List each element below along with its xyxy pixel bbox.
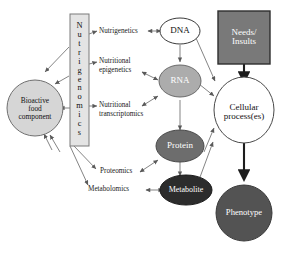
node-dna-shape[interactable] bbox=[160, 18, 200, 44]
edge-nutrigenomics-bioactive-b bbox=[55, 76, 69, 84]
node-phenotype-shape[interactable] bbox=[216, 185, 272, 241]
node-nutrigenomics-label: N u t r i g e n o m i c s bbox=[70, 14, 89, 146]
edge-label-proteomics: Proteomics bbox=[100, 167, 132, 175]
edge-label-nutritional-epigenetics-line2: epigenetics bbox=[99, 66, 131, 74]
nutrigenomics-diagram: N u t r i g e n o m i c s Bioactive food… bbox=[0, 0, 287, 255]
edge-rna-cellular bbox=[199, 84, 214, 96]
edge-protein-cellular bbox=[204, 128, 214, 152]
edge-nutrigenomics-nutrigenetics bbox=[89, 31, 97, 34]
edge-label-metabolomics: Metabolomics bbox=[88, 185, 129, 193]
edge-nutrigenomics-epigenetics bbox=[89, 62, 97, 64]
node-cellular-process-shape[interactable] bbox=[214, 77, 274, 143]
nutrigenomics-letter: s bbox=[78, 129, 81, 138]
edge-nutrigenomics-proteomics bbox=[74, 146, 96, 169]
edge-proteomics-protein bbox=[140, 160, 158, 172]
edges-layer bbox=[0, 0, 287, 255]
nodes-layer bbox=[7, 11, 274, 241]
edge-nutrigenomics-bioactive-a bbox=[45, 47, 69, 72]
node-rna-shape[interactable] bbox=[159, 65, 201, 97]
edge-label-nutritional-transcriptomics-line2: transcriptomics bbox=[99, 110, 143, 118]
edge-transcriptomics-rna bbox=[142, 96, 158, 106]
node-bioactive-shape[interactable] bbox=[7, 80, 63, 136]
edge-epigenetics-rna bbox=[142, 72, 158, 80]
edge-nutrigenomics-metabolomics bbox=[70, 146, 88, 185]
node-needs-insults-shape[interactable] bbox=[218, 11, 270, 64]
edge-label-nutritional-epigenetics-line1: Nutritional bbox=[99, 57, 131, 65]
edge-label-nutritional-transcriptomics-line1: Nutritional bbox=[99, 101, 131, 109]
node-protein-shape[interactable] bbox=[156, 130, 204, 162]
edge-label-nutrigenetics: Nutrigenetics bbox=[99, 27, 138, 35]
node-metabolite-shape[interactable] bbox=[160, 175, 212, 205]
